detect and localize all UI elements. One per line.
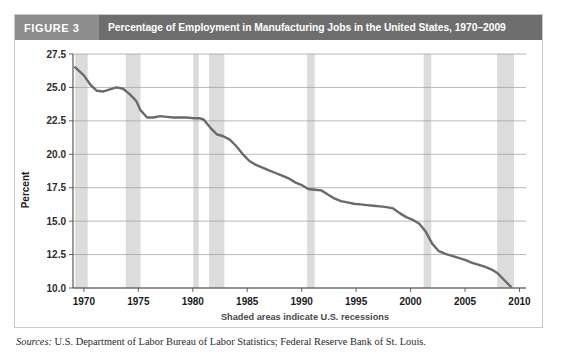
x-tick-label: 1980 xyxy=(182,296,205,307)
x-tick-label: 1990 xyxy=(291,296,314,307)
x-axis-ticks: 197019751980198519901995200020052010 xyxy=(73,288,531,307)
plot-area: 10.012.515.017.520.022.525.027.5 1970197… xyxy=(15,40,542,327)
source-label: Sources: xyxy=(16,336,52,347)
y-tick-label: 10.0 xyxy=(47,283,67,294)
recession-band xyxy=(497,54,514,288)
recession-bands-group xyxy=(75,54,514,288)
figure-panel: FIGURE 3 Percentage of Employment in Man… xyxy=(14,14,543,328)
recession-band xyxy=(209,54,224,288)
figure-root: FIGURE 3 Percentage of Employment in Man… xyxy=(0,0,568,361)
y-tick-label: 27.5 xyxy=(47,49,67,60)
recession-band xyxy=(424,54,432,288)
recession-band xyxy=(126,54,141,288)
gridlines-group xyxy=(73,54,526,288)
chart-caption: Shaded areas indicate U.S. recessions xyxy=(221,312,389,322)
data-series-line xyxy=(75,67,511,286)
x-tick-label: 2000 xyxy=(399,296,422,307)
line-chart: 10.012.515.017.520.022.525.027.5 1970197… xyxy=(15,40,542,327)
x-tick-label: 2005 xyxy=(454,296,477,307)
y-tick-label: 22.5 xyxy=(47,115,67,126)
y-tick-label: 15.0 xyxy=(47,216,67,227)
y-axis-label: Percent xyxy=(20,171,31,208)
x-tick-label: 1985 xyxy=(236,296,259,307)
y-tick-label: 20.0 xyxy=(47,149,67,160)
x-tick-label: 1975 xyxy=(127,296,150,307)
y-tick-label: 12.5 xyxy=(47,249,67,260)
y-axis-ticks: 10.012.515.017.520.022.525.027.5 xyxy=(47,49,73,294)
recession-band xyxy=(75,54,88,288)
axis-lines xyxy=(73,54,526,288)
y-tick-label: 25.0 xyxy=(47,82,67,93)
source-note: Sources: U.S. Department of Labor Bureau… xyxy=(16,336,556,347)
figure-title: Percentage of Employment in Manufacturin… xyxy=(99,15,542,40)
recession-band xyxy=(193,54,198,288)
source-text: U.S. Department of Labor Bureau of Labor… xyxy=(52,336,426,347)
figure-header: FIGURE 3 Percentage of Employment in Man… xyxy=(15,15,542,40)
x-tick-label: 1995 xyxy=(345,296,368,307)
x-tick-label: 1970 xyxy=(73,296,96,307)
figure-number-tag: FIGURE 3 xyxy=(15,15,99,40)
x-tick-label: 2010 xyxy=(508,296,531,307)
y-tick-label: 17.5 xyxy=(47,182,67,193)
recession-band xyxy=(307,54,315,288)
